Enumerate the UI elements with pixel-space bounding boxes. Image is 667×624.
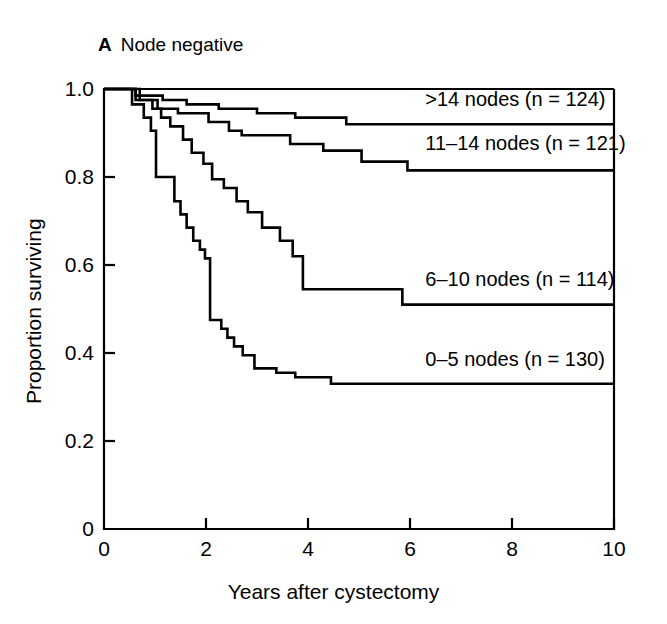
- curve-label-2: 11–14 nodes (n = 121): [425, 132, 625, 155]
- curve-label-3: 6–10 nodes (n = 114): [425, 268, 614, 291]
- y-tick-label: 0.2: [28, 429, 94, 453]
- y-axis-title: Proportion surviving: [22, 218, 46, 404]
- x-tick-label: 6: [404, 537, 416, 561]
- y-tick-label: 0: [28, 517, 94, 541]
- curve-label-1: >14 nodes (n = 124): [425, 88, 605, 111]
- x-tick-label: 10: [602, 537, 625, 561]
- x-tick-label: 2: [200, 537, 212, 561]
- y-tick-label: 1.0: [28, 77, 94, 101]
- x-tick-label: 0: [98, 537, 110, 561]
- x-tick-label: 4: [302, 537, 314, 561]
- x-axis-title: Years after cystectomy: [0, 580, 667, 604]
- figure-panel-a: A Node negative 00.20.40.60.81.0 0246810…: [0, 0, 667, 624]
- curve-label-4: 0–5 nodes (n = 130): [425, 348, 605, 371]
- axes: [104, 89, 614, 529]
- axis-frame: [104, 89, 614, 529]
- x-tick-label: 8: [506, 537, 518, 561]
- plot-area: [104, 89, 614, 529]
- y-tick-label: 0.8: [28, 165, 94, 189]
